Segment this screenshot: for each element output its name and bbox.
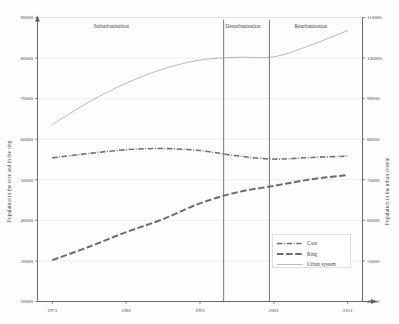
phase-label: Desurbanisation: [225, 23, 260, 29]
x-tick-label: 1981: [121, 308, 132, 313]
chart-canvas: 2000030000400005000060000700008000090000…: [0, 0, 399, 324]
x-tick-label: 1971: [47, 308, 58, 313]
phase-annotations: SuburbanisationDesurbanisationReurbanisa…: [94, 23, 328, 29]
phase-dividers: [224, 20, 270, 302]
x-tick-label: 2011: [343, 308, 353, 313]
right-axis: 4000050000600007000080000900001000001100…: [363, 15, 383, 304]
y2-tick-label: 70000: [367, 178, 380, 183]
y2-tick-label: 90000: [367, 96, 380, 101]
series-line-urban-system: [52, 30, 347, 124]
y-tick-label: 60000: [21, 137, 34, 142]
chart-legend: CoreRingUrban system: [273, 235, 351, 268]
left-axis-arrow: [35, 16, 40, 22]
bottom-axis: 19711981199120012011: [38, 299, 378, 312]
phase-label: Reurbanisation: [294, 23, 327, 29]
legend-label: Urban system: [307, 261, 336, 267]
y2-tick-label: 100000: [367, 56, 383, 61]
y-tick-label: 50000: [21, 178, 34, 183]
legend-label: Ring: [307, 251, 317, 257]
y2-tick-label: 110000: [367, 15, 382, 20]
y-tick-label: 70000: [21, 96, 34, 101]
y2-tick-label: 50000: [367, 259, 380, 264]
y2-tick-label: 80000: [367, 137, 380, 142]
y-tick-label: 90000: [21, 15, 34, 20]
y-tick-label: 40000: [21, 218, 34, 223]
y-tick-label: 20000: [21, 299, 34, 304]
y-axis-title: Population in the core and in the ring: [6, 140, 12, 222]
gridlines-horizontal: [38, 58, 363, 261]
phase-label: Suburbanisation: [94, 23, 129, 29]
series-line-core: [52, 149, 347, 160]
y-tick-label: 80000: [21, 56, 34, 61]
left-axis: 2000030000400005000060000700008000090000: [21, 15, 40, 304]
chart-figure: 2000030000400005000060000700008000090000…: [0, 0, 399, 324]
y2-axis-title: Population in the urban system: [384, 157, 390, 225]
series-group: [52, 30, 347, 260]
legend-label: Core: [307, 240, 318, 246]
y-tick-label: 30000: [21, 259, 34, 264]
x-tick-label: 1991: [195, 308, 206, 313]
y2-tick-label: 60000: [367, 218, 380, 223]
x-tick-label: 2001: [269, 308, 280, 313]
